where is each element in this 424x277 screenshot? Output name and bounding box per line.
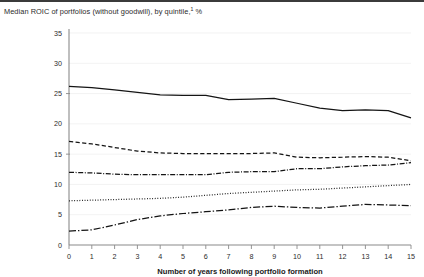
y-tick-label: 20 bbox=[54, 119, 62, 128]
series-line-4 bbox=[69, 184, 411, 200]
y-tick-label: 35 bbox=[54, 29, 62, 38]
x-tick-label: 10 bbox=[293, 252, 301, 261]
gridlines bbox=[69, 33, 411, 215]
y-tick-label: 30 bbox=[54, 59, 62, 68]
chart-title-text: Median ROIC of portfolios (without goodw… bbox=[4, 7, 191, 16]
x-tick-label: 9 bbox=[272, 252, 276, 261]
y-tick-label: 0 bbox=[58, 241, 62, 250]
y-tick-label: 10 bbox=[54, 180, 62, 189]
x-tick-label: 3 bbox=[135, 252, 139, 261]
chart-title-unit: % bbox=[193, 7, 202, 16]
x-tick-label: 11 bbox=[316, 252, 323, 261]
x-axis-title: Number of years following portfolio form… bbox=[157, 267, 323, 276]
header-rule bbox=[0, 0, 424, 2]
y-tick-label: 5 bbox=[58, 210, 62, 219]
series-line-1 bbox=[69, 86, 411, 118]
x-tick-label: 0 bbox=[67, 252, 71, 261]
page-title: Median ROIC of portfolios (without goodw… bbox=[4, 7, 202, 16]
x-tick-label: 5 bbox=[181, 252, 185, 261]
x-axis-tick-labels: 0123456789101112131415 bbox=[67, 252, 415, 261]
y-axis-tick-labels: 05101520253035 bbox=[54, 29, 62, 250]
series-line-3 bbox=[69, 163, 411, 175]
x-tick-label: 4 bbox=[158, 252, 162, 261]
chart-figure: Median ROIC of portfolios (without goodw… bbox=[0, 0, 424, 277]
series-line-5 bbox=[69, 204, 411, 231]
x-tick-label: 14 bbox=[384, 252, 392, 261]
line-chart: 05101520253035 0123456789101112131415 Nu… bbox=[0, 22, 424, 277]
x-tick-label: 2 bbox=[113, 252, 117, 261]
x-tick-label: 12 bbox=[339, 252, 347, 261]
x-tick-label: 8 bbox=[249, 252, 253, 261]
series-line-2 bbox=[69, 141, 411, 160]
x-tick-label: 15 bbox=[407, 252, 415, 261]
x-tick-label: 7 bbox=[227, 252, 231, 261]
x-tick-label: 6 bbox=[204, 252, 208, 261]
x-tick-label: 13 bbox=[361, 252, 369, 261]
axis-tick-marks bbox=[66, 94, 411, 249]
y-tick-label: 25 bbox=[54, 89, 62, 98]
data-series-group bbox=[69, 86, 411, 231]
y-tick-label: 15 bbox=[54, 150, 62, 159]
x-tick-label: 1 bbox=[90, 252, 94, 261]
